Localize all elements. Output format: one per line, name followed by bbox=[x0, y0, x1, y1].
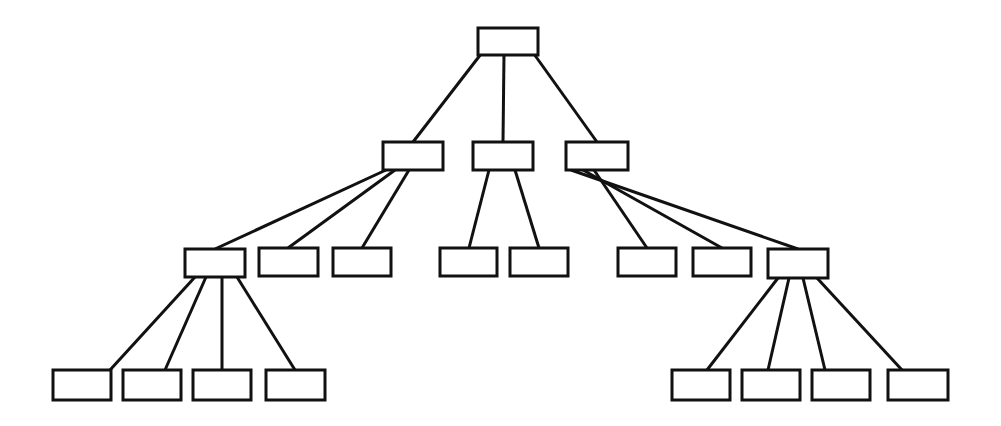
tree-edge bbox=[707, 278, 778, 370]
tree-node-box[interactable] bbox=[768, 249, 828, 278]
tree-node-box[interactable] bbox=[333, 248, 391, 276]
tree-node-box[interactable] bbox=[478, 28, 538, 55]
tree-node-box[interactable] bbox=[510, 248, 568, 276]
tree-edge bbox=[803, 278, 825, 370]
tree-diagram bbox=[0, 0, 1001, 426]
tree-node[interactable] bbox=[566, 142, 628, 170]
tree-node[interactable] bbox=[440, 248, 497, 276]
tree-node-box[interactable] bbox=[742, 370, 800, 400]
tree-node-box[interactable] bbox=[566, 142, 628, 170]
tree-node-box[interactable] bbox=[53, 370, 111, 400]
tree-edge bbox=[237, 277, 295, 370]
tree-node[interactable] bbox=[693, 248, 751, 276]
tree-edge bbox=[503, 54, 504, 142]
nodes-layer bbox=[53, 28, 948, 400]
tree-node-box[interactable] bbox=[618, 248, 676, 276]
tree-node-box[interactable] bbox=[259, 248, 318, 276]
tree-node-box[interactable] bbox=[383, 142, 443, 170]
edges-layer bbox=[110, 54, 902, 370]
tree-node-box[interactable] bbox=[888, 370, 948, 400]
tree-edge bbox=[768, 278, 789, 370]
tree-node[interactable] bbox=[473, 142, 533, 170]
tree-node-box[interactable] bbox=[693, 248, 751, 276]
tree-node[interactable] bbox=[672, 370, 730, 400]
tree-node[interactable] bbox=[383, 142, 443, 170]
tree-node[interactable] bbox=[53, 370, 111, 400]
tree-edge bbox=[413, 54, 481, 142]
tree-edge bbox=[571, 170, 798, 249]
tree-node[interactable] bbox=[510, 248, 568, 276]
tree-node-box[interactable] bbox=[672, 370, 730, 400]
tree-edge bbox=[534, 54, 597, 142]
tree-node[interactable] bbox=[193, 370, 251, 400]
tree-node-box[interactable] bbox=[185, 249, 245, 277]
tree-node[interactable] bbox=[185, 249, 245, 277]
tree-edge bbox=[165, 277, 206, 370]
tree-node[interactable] bbox=[266, 370, 325, 400]
tree-node[interactable] bbox=[888, 370, 948, 400]
tree-node[interactable] bbox=[812, 370, 870, 400]
tree-node[interactable] bbox=[259, 248, 318, 276]
tree-node-box[interactable] bbox=[123, 370, 181, 400]
tree-edge bbox=[515, 170, 539, 248]
tree-node[interactable] bbox=[333, 248, 391, 276]
tree-node[interactable] bbox=[742, 370, 800, 400]
tree-node[interactable] bbox=[478, 28, 538, 55]
tree-node-box[interactable] bbox=[473, 142, 533, 170]
tree-node[interactable] bbox=[768, 249, 828, 278]
tree-node[interactable] bbox=[123, 370, 181, 400]
tree-node-box[interactable] bbox=[440, 248, 497, 276]
tree-edge bbox=[469, 170, 489, 248]
tree-edge bbox=[817, 278, 902, 370]
tree-node-box[interactable] bbox=[193, 370, 251, 400]
tree-node-box[interactable] bbox=[266, 370, 325, 400]
tree-node[interactable] bbox=[618, 248, 676, 276]
tree-node-box[interactable] bbox=[812, 370, 870, 400]
tree-diagram-canvas bbox=[0, 0, 1001, 426]
tree-edge bbox=[110, 277, 195, 370]
tree-edge bbox=[362, 170, 409, 248]
